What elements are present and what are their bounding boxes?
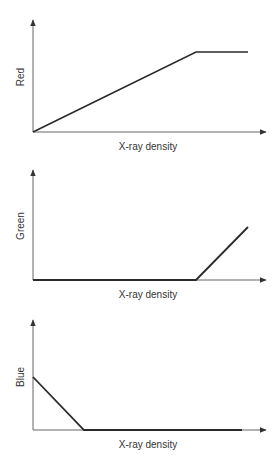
red-curve — [33, 52, 248, 132]
blue-x-label: X-ray density — [119, 439, 177, 450]
blue-y-label: Blue — [15, 367, 26, 387]
green-curve — [33, 227, 248, 280]
green-y-label: Green — [15, 212, 26, 240]
red-y-label: Red — [15, 68, 26, 86]
red-chart: Red X-ray density — [15, 20, 266, 152]
blue-curve — [33, 377, 242, 430]
red-x-label: X-ray density — [119, 141, 177, 152]
blue-chart: Blue X-ray density — [15, 320, 266, 450]
green-x-label: X-ray density — [119, 289, 177, 300]
rgb-transfer-diagram: Red X-ray density Green X-ray density Bl… — [0, 0, 278, 460]
green-chart: Green X-ray density — [15, 170, 266, 300]
